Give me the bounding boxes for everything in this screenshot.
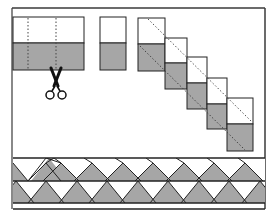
quilt-diagram <box>0 0 271 215</box>
segment-4 <box>207 78 227 129</box>
cut-segment <box>100 17 126 70</box>
segment-1 <box>138 18 165 71</box>
triangle-border-band <box>0 158 271 209</box>
segment-3 <box>187 57 207 109</box>
segment-5 <box>227 98 253 151</box>
scissors-icon <box>46 68 66 99</box>
staircase-segments <box>138 18 253 151</box>
fabric-strip <box>13 17 84 70</box>
